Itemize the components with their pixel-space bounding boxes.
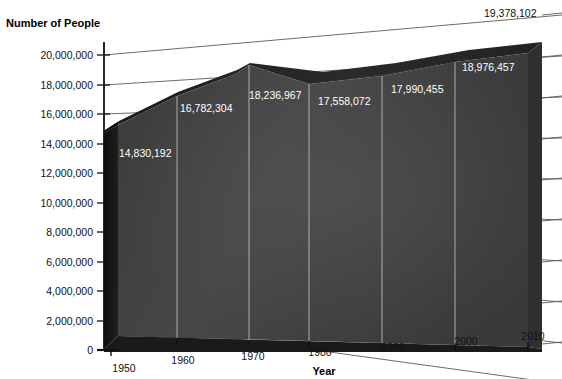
xtick-label-2000: 2000 [454, 335, 478, 347]
data-label-1980: 17,558,072 [318, 95, 371, 107]
xtick-label-1990: 1990 [381, 341, 405, 353]
ytick-label-0: 0 [87, 344, 93, 356]
data-label-1990: 17,990,455 [391, 83, 444, 95]
ytick-label-8000000: 8,000,000 [46, 226, 93, 238]
ytick-label-14000000: 14,000,000 [40, 138, 93, 150]
ytick-label-20000000: 20,000,000 [40, 49, 93, 61]
data-label-2010: 19,378,102 [484, 7, 537, 19]
ytick-label-4000000: 4,000,000 [46, 285, 93, 297]
ytick-label-16000000: 16,000,000 [40, 108, 93, 120]
gridline-tail-20000000 [542, 13, 562, 15]
xtick-label-1970: 1970 [241, 350, 265, 362]
population-area-chart: 20,000,000 18,000,000 16,000,000 14,000,… [0, 0, 562, 379]
ytick-label-6000000: 6,000,000 [46, 256, 93, 268]
ytick-label-18000000: 18,000,000 [40, 79, 93, 91]
ytick-label-10000000: 10,000,000 [40, 197, 93, 209]
area-3d-body [104, 42, 542, 352]
ytick-label-12000000: 12,000,000 [40, 167, 93, 179]
data-label-1960: 16,782,304 [180, 102, 233, 114]
area-left-side-face [104, 125, 118, 349]
data-label-1970: 18,236,967 [249, 89, 302, 101]
xtick-label-1980: 1980 [308, 346, 332, 358]
chart-canvas: 20,000,000 18,000,000 16,000,000 14,000,… [0, 0, 562, 379]
data-label-1950: 14,830,192 [119, 147, 172, 159]
data-label-2000: 18,976,457 [462, 61, 515, 73]
x-axis-title: Year [312, 365, 336, 377]
y-axis-tick-labels: 20,000,000 18,000,000 16,000,000 14,000,… [40, 49, 93, 356]
area-right-side-face [528, 42, 542, 349]
xtick-label-1960: 1960 [171, 354, 195, 366]
xtick-label-2010: 2010 [521, 330, 545, 342]
xtick-label-1950: 1950 [112, 362, 136, 374]
y-axis-title: Number of People [6, 17, 100, 29]
ytick-label-2000000: 2,000,000 [46, 315, 93, 327]
